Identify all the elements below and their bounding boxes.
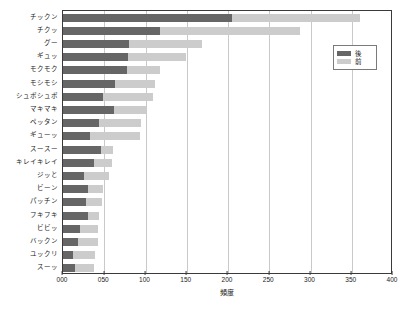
y-axis-label: ギュッ (37, 52, 58, 60)
bar-segment-後 (63, 198, 86, 206)
y-axis-label: モシモシ (30, 79, 58, 87)
x-axis-tick-label: 100 (139, 275, 150, 284)
bar-segment-後 (63, 14, 232, 22)
bar-segment-後 (63, 132, 90, 140)
tick-mark (392, 271, 393, 275)
bar-segment-後 (63, 251, 73, 259)
y-axis-label: モクモク (30, 65, 58, 73)
bar-row (63, 212, 99, 220)
x-axis-tick-label: 400 (387, 275, 398, 284)
bar-row (63, 40, 202, 48)
y-axis-label: シュボシュボ (16, 92, 58, 100)
bar-segment-後 (63, 264, 75, 272)
bar-segment-前 (160, 27, 300, 35)
y-axis-label: ギューッ (30, 131, 58, 139)
x-axis-tick-label: 300 (304, 275, 315, 284)
bar-segment-後 (63, 212, 88, 220)
bar-row (63, 14, 360, 22)
legend: 後前 (333, 45, 377, 70)
bar-segment-後 (63, 159, 94, 167)
y-axis-label: スーッ (37, 263, 58, 271)
bar-segment-後 (63, 225, 80, 233)
y-axis-label: パッチン (30, 197, 58, 205)
y-axis-label: ジッと (37, 171, 58, 179)
bar-row (63, 159, 112, 167)
bar-segment-前 (127, 66, 160, 74)
bar-segment-前 (86, 198, 102, 206)
bar-segment-後 (63, 53, 128, 61)
y-axis-label: マキマキ (30, 105, 58, 113)
x-axis-tick-label: 000 (57, 275, 68, 284)
bar-segment-前 (103, 93, 153, 101)
y-axis-label: ユックリ (30, 250, 58, 258)
bar-row (63, 198, 102, 206)
tick-mark (268, 271, 269, 275)
bar-segment-後 (63, 119, 99, 127)
legend-swatch (337, 51, 351, 56)
bar-segment-後 (63, 172, 84, 180)
x-axis-tick-label: 250 (263, 275, 274, 284)
bar-segment-前 (114, 106, 146, 114)
bar-row (63, 251, 95, 259)
x-axis-tick-label: 050 (98, 275, 109, 284)
bar-segment-前 (232, 14, 360, 22)
legend-swatch (337, 59, 351, 64)
y-axis-label: ビビッ (37, 224, 58, 232)
legend-label: 後 (355, 50, 362, 57)
legend-label: 前 (355, 58, 362, 65)
bar-segment-後 (63, 66, 127, 74)
bar-segment-後 (63, 185, 88, 193)
bar-segment-前 (88, 185, 103, 193)
bar-row (63, 132, 140, 140)
y-axis-label: スースー (30, 145, 58, 153)
bar-row (63, 53, 186, 61)
bar-segment-前 (80, 225, 99, 233)
bar-chart: チックンチクッグーギュッモクモクモシモシシュボシュボマキマキペッタンギューッスー… (0, 0, 406, 314)
bar-segment-前 (115, 80, 155, 88)
bar-row (63, 146, 113, 154)
bar-row (63, 238, 98, 246)
legend-item: 後 (337, 50, 373, 57)
tick-mark (103, 271, 104, 275)
bar-segment-前 (101, 146, 113, 154)
bar-segment-後 (63, 106, 114, 114)
tick-mark (227, 271, 228, 275)
bar-segment-前 (90, 132, 140, 140)
tick-mark (62, 271, 63, 275)
x-axis-tick-label: 200 (222, 275, 233, 284)
bar-segment-前 (78, 238, 98, 246)
bar-row (63, 27, 300, 35)
bar-row (63, 106, 146, 114)
bar-segment-前 (94, 159, 112, 167)
bar-segment-後 (63, 93, 103, 101)
bar-row (63, 172, 109, 180)
legend-item: 前 (337, 58, 373, 65)
bar-row (63, 80, 155, 88)
bar-row (63, 93, 153, 101)
bar-segment-前 (75, 264, 94, 272)
bar-segment-後 (63, 238, 78, 246)
y-axis-label: バックン (30, 237, 58, 245)
x-axis-tick-label: 350 (345, 275, 356, 284)
y-axis-label: キレイキレイ (16, 158, 58, 166)
bar-row (63, 119, 141, 127)
bar-segment-後 (63, 80, 115, 88)
tick-mark (186, 271, 187, 275)
y-axis-label: ビーン (37, 184, 58, 192)
bar-segment-後 (63, 27, 160, 35)
bar-segment-後 (63, 40, 129, 48)
y-axis-label: グー (44, 39, 58, 47)
bar-row (63, 66, 160, 74)
y-axis-label: フキフキ (30, 211, 58, 219)
bar-segment-前 (128, 53, 186, 61)
tick-mark (351, 271, 352, 275)
bar-row (63, 264, 94, 272)
bar-segment-前 (129, 40, 202, 48)
bar-segment-前 (88, 212, 100, 220)
bar-row (63, 225, 98, 233)
y-axis-label: チクッ (37, 26, 58, 34)
x-axis-tick-label: 150 (180, 275, 191, 284)
bar-row (63, 185, 103, 193)
bar-segment-前 (99, 119, 140, 127)
y-axis-label: チックン (30, 13, 58, 21)
